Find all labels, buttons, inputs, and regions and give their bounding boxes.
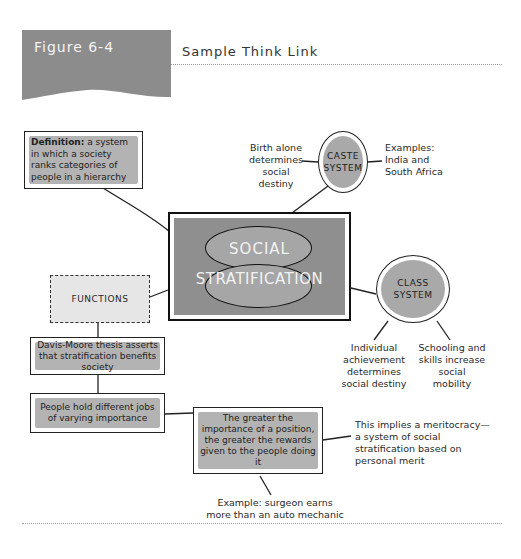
class-right-note: Schooling and skills increase social mob… — [418, 342, 486, 390]
jobs-text: People hold different jobs of varying im… — [37, 398, 158, 428]
functions-node: FUNCTIONS — [50, 275, 150, 323]
davis-moore-text: Davis-Moore thesis asserts that stratifi… — [37, 342, 158, 370]
footer-divider — [22, 523, 502, 524]
figure-title: Sample Think Link — [182, 44, 318, 59]
caste-system-node: CASTE SYSTEM — [318, 131, 368, 193]
caste-system-label: CASTE SYSTEM — [323, 136, 363, 188]
class-system-node: CLASS SYSTEM — [376, 255, 450, 323]
caste-left-note: Birth alone determines social destiny — [248, 142, 304, 190]
davis-moore-box: Davis-Moore thesis asserts that stratifi… — [30, 337, 165, 375]
header-divider — [171, 64, 502, 65]
definition-label: Definition: — [31, 137, 84, 147]
figure-banner: Figure 6-4 — [22, 30, 171, 100]
example-note: Example: surgeon earns more than an auto… — [205, 497, 345, 521]
rewards-box: The greater the importance of a position… — [193, 407, 323, 474]
central-title-line1: SOCIAL — [170, 240, 349, 258]
figure-label: Figure 6-4 — [34, 39, 114, 55]
social-stratification-node: SOCIAL STRATIFICATION — [168, 212, 351, 321]
central-title-line2: STRATIFICATION — [170, 270, 349, 288]
class-system-label: CLASS SYSTEM — [381, 260, 445, 318]
meritocracy-note: This implies a meritocracy—a system of s… — [355, 419, 495, 467]
definition-box: Definition: a system in which a society … — [24, 131, 143, 189]
jobs-box: People hold different jobs of varying im… — [30, 393, 165, 433]
class-left-note: Individual achievement determines social… — [340, 342, 408, 390]
rewards-text: The greater the importance of a position… — [200, 412, 316, 469]
caste-right-note: Examples: India and South Africa — [385, 142, 455, 178]
